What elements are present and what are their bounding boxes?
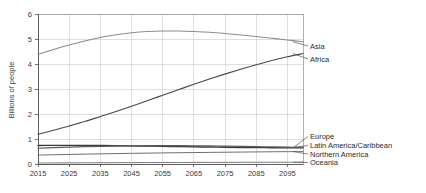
- population-projection-line-chart: 0123456 20152025203520452055206520752085…: [0, 0, 426, 193]
- x-tick-label: 2095: [279, 169, 296, 178]
- x-tick-label: 2075: [217, 169, 234, 178]
- series-label-europe: Europe: [310, 132, 334, 141]
- x-tick-label: 2045: [123, 169, 140, 178]
- y-tick-label: 1: [28, 135, 32, 144]
- x-tick-label: 2055: [154, 169, 171, 178]
- series-label-oceania: Oceania: [310, 158, 339, 167]
- y-tick-label: 0: [28, 160, 32, 169]
- x-tick-label: 2015: [30, 169, 47, 178]
- x-tick-label: 2085: [248, 169, 265, 178]
- x-tick-label: 2035: [92, 169, 109, 178]
- y-tick-label: 5: [28, 35, 32, 44]
- chart-page: 0123456 20152025203520452055206520752085…: [0, 0, 426, 193]
- y-tick-label: 4: [28, 60, 32, 69]
- x-tick-label: 2025: [61, 169, 78, 178]
- series-label-africa: Africa: [310, 55, 330, 64]
- x-axis-ticks: 201520252035204520552065207520852095: [30, 164, 296, 178]
- x-tick-label: 2065: [186, 169, 203, 178]
- y-axis-title: Billions of people: [7, 62, 16, 119]
- y-tick-label: 6: [28, 10, 32, 19]
- y-tick-label: 3: [28, 85, 32, 94]
- series-label-asia: Asia: [310, 42, 325, 51]
- y-tick-label: 2: [28, 110, 32, 119]
